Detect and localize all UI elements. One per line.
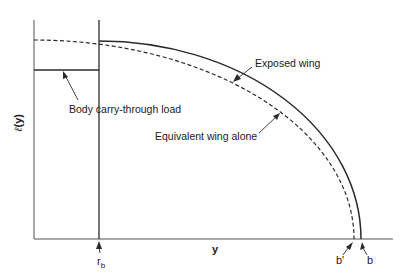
y-axis-label: ℓ(y)	[12, 114, 25, 132]
exposed-wing-label: Exposed wing	[255, 58, 320, 69]
arrowhead-icon	[63, 71, 68, 79]
equivalent-wing-leader	[259, 117, 276, 133]
tick-b: b	[367, 254, 373, 266]
tick-rb-sub: b	[101, 261, 105, 270]
y-axis-argument: (y)	[12, 114, 24, 127]
body-carry-through-label: Body carry-through load	[69, 104, 181, 115]
body-carry-through-leader	[66, 77, 78, 100]
equivalent-wing-label: Equivalent wing alone	[155, 131, 257, 142]
y-axis-symbol: ℓ	[12, 127, 25, 132]
tick-b-prime: b'	[336, 254, 344, 266]
lift-distribution-diagram: ℓ(y) y rb b' b Exposed wing Equivalent w…	[0, 0, 409, 277]
arrowhead-icon	[233, 74, 241, 82]
b-arrowhead-icon	[360, 242, 365, 250]
tick-rb: rb	[97, 255, 105, 270]
x-axis-label: y	[212, 243, 218, 255]
